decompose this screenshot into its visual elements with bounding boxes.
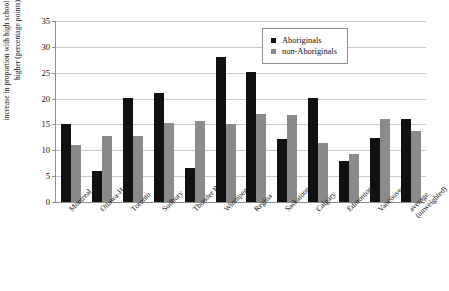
legend: Aboriginals non-Aboriginals: [262, 28, 348, 64]
y-tick-label: 10: [41, 146, 50, 155]
bar-non-aboriginals: [411, 131, 421, 202]
y-tick-label: 20: [41, 94, 50, 103]
bar-non-aboriginals: [164, 123, 174, 202]
x-label-cell: Sudbury: [147, 205, 178, 291]
bar-aboriginals: [185, 168, 195, 202]
gray-square-marker-icon: [271, 49, 276, 54]
legend-item-aboriginals: Aboriginals: [271, 36, 337, 45]
bar-aboriginals: [154, 93, 164, 202]
y-tick-label: 0: [46, 198, 50, 207]
bar-group: [179, 21, 210, 202]
y-tick-label: 35: [41, 17, 50, 26]
bar-aboriginals: [277, 139, 287, 202]
x-label-cell: Calgary: [302, 205, 333, 291]
x-label-cell: Regina: [240, 205, 271, 291]
bar-group: [118, 21, 149, 202]
x-label-cell: average(unweighted): [394, 205, 425, 291]
bar-aboriginals: [61, 124, 71, 202]
legend-label: Aboriginals: [282, 36, 322, 45]
x-label-cell: Toronto: [117, 205, 148, 291]
bar-non-aboriginals: [380, 119, 390, 202]
y-tick-label: 25: [41, 68, 50, 77]
bar-groups: [56, 21, 426, 202]
bar-aboriginals: [339, 161, 349, 202]
x-axis-labels: MontrealOttawa-HullTorontoSudburyThunder…: [55, 205, 425, 291]
bar-group: [87, 21, 118, 202]
bar-group: [364, 21, 395, 202]
x-label-cell: Winnipeg: [209, 205, 240, 291]
x-label-cell: Vancouver: [363, 205, 394, 291]
bar-non-aboriginals: [133, 136, 143, 202]
y-tick-label: 30: [41, 43, 50, 52]
bar-aboriginals: [246, 72, 256, 202]
x-label-cell: Edmonton: [332, 205, 363, 291]
bar-group: [56, 21, 87, 202]
bar-non-aboriginals: [226, 124, 236, 202]
bar-non-aboriginals: [256, 114, 266, 202]
y-tick-label: 15: [41, 120, 50, 129]
legend-item-non-aboriginals: non-Aboriginals: [271, 47, 337, 56]
bar-non-aboriginals: [287, 115, 297, 202]
bar-aboriginals: [92, 171, 102, 202]
black-square-marker-icon: [271, 38, 276, 43]
bar-group: [148, 21, 179, 202]
y-axis-title: increase in proportion with high school …: [2, 0, 26, 128]
bar-aboriginals: [308, 98, 318, 202]
bar-non-aboriginals: [102, 136, 112, 202]
x-label-cell: Thunder Bay: [178, 205, 209, 291]
y-tick-label: 5: [46, 172, 50, 181]
y-tick-mark: [52, 202, 56, 203]
plot-area: 05101520253035: [55, 21, 425, 203]
x-label-cell: Ottawa-Hull: [86, 205, 117, 291]
x-label-cell: Saskatoon: [271, 205, 302, 291]
bar-group: [395, 21, 426, 202]
legend-label: non-Aboriginals: [282, 47, 337, 56]
bar-group: [210, 21, 241, 202]
bar-non-aboriginals: [195, 121, 205, 202]
x-label-cell: Montreal: [55, 205, 86, 291]
